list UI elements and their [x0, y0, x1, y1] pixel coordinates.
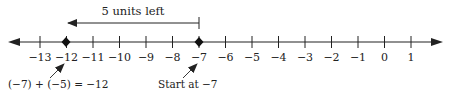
tick-label: −1: [350, 51, 366, 64]
tick-label: −8: [164, 51, 180, 64]
start-pointer-arrow: [183, 64, 197, 78]
start-label: Start at −7: [158, 78, 218, 90]
tick-label: −12: [55, 51, 78, 64]
tick-label: −9: [138, 51, 154, 64]
move-label: 5 units left: [101, 4, 164, 18]
point-start: [195, 37, 204, 47]
ticks: −13−12−11−10−9−8−7−6−5−4−3−2−101: [28, 36, 414, 64]
tick-label: −2: [323, 51, 339, 64]
end-label: (−7) + (−5) = −12: [8, 78, 108, 90]
tick-label: −10: [108, 51, 131, 64]
tick-label: −6: [217, 51, 233, 64]
tick-label: −5: [244, 51, 260, 64]
point-end: [62, 37, 71, 47]
tick-label: −3: [297, 51, 313, 64]
tick-label: −4: [270, 51, 286, 64]
tick-label: −13: [28, 51, 51, 64]
move-arrow: [68, 17, 199, 29]
left-arrow-icon: [8, 38, 20, 46]
right-arrow-icon: [431, 38, 443, 46]
tick-label: 0: [381, 51, 388, 64]
tick-label: 1: [408, 51, 415, 64]
tick-label: −11: [81, 51, 104, 64]
end-pointer-arrow: [50, 64, 64, 78]
tick-label: −7: [191, 51, 207, 64]
number-line-diagram: 5 units left −13−12−11−10−9−8−7−6−5−4−3−…: [0, 0, 450, 99]
